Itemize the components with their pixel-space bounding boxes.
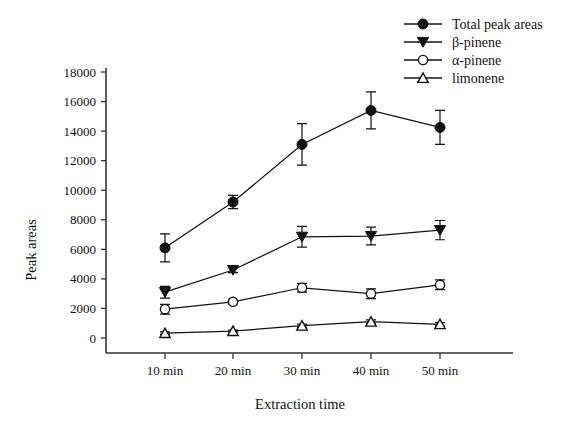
figure-container: 0200040006000800010000120001400016000180…: [0, 0, 583, 426]
data-point-open-circle: [435, 280, 444, 289]
data-point-filled-circle: [160, 243, 170, 253]
legend-label: β-pinene: [452, 35, 501, 50]
data-point-open-circle: [366, 289, 375, 298]
data-point-filled-circle: [418, 19, 428, 29]
legend-label: limonene: [452, 71, 504, 86]
y-tick-label: 0: [90, 331, 97, 346]
y-tick-label: 16000: [64, 94, 97, 109]
legend-item-0[interactable]: Total peak areas: [404, 17, 543, 32]
series-3: [160, 317, 445, 338]
chart-legend: Total peak areasβ-pineneα-pinenelimonene: [404, 17, 543, 86]
legend-label: α-pinene: [452, 53, 501, 68]
y-tick-label: 2000: [70, 301, 96, 316]
y-tick-label: 14000: [64, 124, 97, 139]
data-point-filled-circle: [366, 105, 376, 115]
legend-item-3[interactable]: limonene: [404, 71, 504, 86]
data-point-open-circle: [160, 305, 169, 314]
y-tick-label: 8000: [70, 212, 96, 227]
data-point-filled-triangle-down: [159, 288, 170, 298]
x-tick-label: 20 min: [215, 363, 252, 378]
y-axis-ticks: 0200040006000800010000120001400016000180…: [64, 65, 107, 346]
data-point-filled-circle: [228, 197, 238, 207]
x-axis-title: Extraction time: [255, 396, 345, 412]
y-tick-label: 6000: [70, 242, 96, 257]
legend-item-1[interactable]: β-pinene: [404, 35, 501, 50]
data-point-filled-circle: [297, 139, 307, 149]
data-point-open-circle: [228, 297, 237, 306]
x-tick-label: 30 min: [284, 363, 321, 378]
data-point-open-circle: [418, 55, 427, 64]
legend-item-2[interactable]: α-pinene: [404, 53, 501, 68]
y-tick-label: 4000: [70, 271, 96, 286]
x-tick-label: 10 min: [147, 363, 184, 378]
data-point-filled-triangle-down: [227, 265, 238, 275]
y-tick-label: 10000: [64, 183, 97, 198]
data-point-open-circle: [297, 283, 306, 292]
x-axis-ticks: 10 min20 min30 min40 min50 min: [147, 353, 459, 378]
x-tick-label: 40 min: [353, 363, 390, 378]
y-axis-title: Peak areas: [23, 219, 39, 281]
data-point-filled-circle: [435, 122, 445, 132]
series-2: [160, 280, 445, 314]
data-series-group: [159, 92, 445, 338]
y-tick-label: 12000: [64, 153, 97, 168]
legend-label: Total peak areas: [452, 17, 543, 32]
y-tick-label: 18000: [64, 65, 97, 80]
x-tick-label: 50 min: [422, 363, 459, 378]
line-chart: 0200040006000800010000120001400016000180…: [0, 0, 583, 426]
